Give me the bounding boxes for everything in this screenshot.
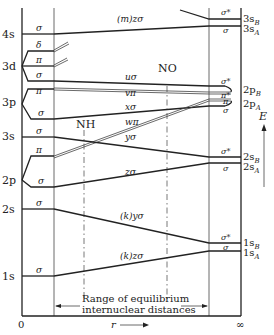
orbital-w-pi: wπ — [125, 117, 140, 127]
r-label: r — [111, 319, 117, 330]
correlation-diagram: NH NO 4s 3d 3p 3s 2p 2s 1s σ δ π σ π σ σ — [0, 0, 274, 335]
sym-3p-pi: π — [35, 86, 43, 96]
level-1s: 1s — [2, 270, 15, 283]
level-2p: 2p — [2, 174, 16, 187]
orbital-x-sigma: xσ — [125, 102, 137, 112]
sym-3p-sigma: σ — [38, 108, 45, 118]
sym-4s-sigma: σ — [36, 23, 43, 33]
sym-3sB: σ* — [221, 8, 230, 17]
level-4s: 4s — [2, 28, 15, 41]
sym-3d-delta: δ — [36, 40, 41, 50]
orbital-v-pi: vπ — [125, 88, 137, 98]
nh-label: NH — [76, 118, 95, 131]
sym-1sB: σ* — [221, 233, 230, 242]
orbital-z-sigma: zσ — [124, 167, 137, 177]
sym-3s-sigma: σ — [36, 126, 43, 136]
sym-2sA: σ — [223, 164, 229, 173]
r-axis-arrow: r — [111, 319, 149, 330]
sym-1s-sigma: σ — [36, 265, 43, 275]
sym-2sB: σ* — [221, 147, 230, 156]
orbital-m-z-sigma: (m)zσ — [117, 14, 144, 24]
x-axis-start: 0 — [18, 319, 24, 330]
range-label-line2: internuclear distances — [82, 304, 196, 315]
sym-2pA-pi: π — [222, 97, 229, 106]
no-label: NO — [158, 62, 177, 75]
sym-3sA: σ — [223, 26, 229, 35]
x-axis-end: ∞ — [236, 319, 244, 330]
orbital-y-sigma: yσ — [124, 132, 137, 142]
range-annotation: Range of equilibrium internuclear distan… — [55, 293, 208, 315]
orbital-u-sigma: uσ — [125, 72, 138, 82]
energy-axis-arrow: E — [258, 110, 267, 187]
sym-3d-pi: π — [35, 55, 43, 65]
energy-label: E — [258, 110, 267, 123]
sym-2p-pi: π — [35, 145, 43, 155]
sym-3d-sigma: σ — [36, 70, 43, 80]
sym-2pA-sigma: σ — [223, 106, 229, 115]
sym-1sA: σ — [223, 243, 229, 252]
sym-2pB-sigma-star: σ* — [221, 77, 230, 86]
sym-2p-sigma: σ — [38, 176, 45, 186]
correlation-lines — [54, 10, 241, 276]
orbital-k-z-sigma: (k)zσ — [120, 251, 144, 261]
level-3p: 3p — [2, 96, 16, 109]
sep-2pB: 2pB — [243, 84, 261, 98]
sym-2s-sigma: σ — [36, 198, 43, 208]
level-3d: 3d — [2, 60, 16, 73]
level-3s: 3s — [2, 130, 15, 143]
level-2s: 2s — [2, 203, 15, 216]
range-label-line1: Range of equilibrium — [82, 293, 190, 304]
orbital-k-y-sigma: (k)yσ — [120, 211, 145, 221]
